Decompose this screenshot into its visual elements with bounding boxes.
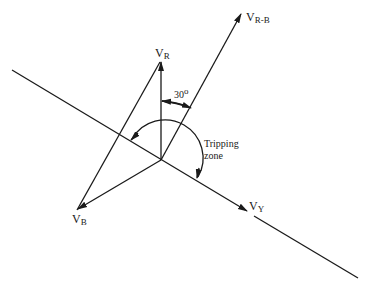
vr-to-vb-line	[77, 62, 160, 210]
boundary-line-extension	[254, 216, 358, 278]
phasor-diagram: VR VR-B VY VB 30o Tripping zone	[0, 0, 367, 288]
angle-label: 30o	[174, 86, 189, 100]
tripping-label: Tripping	[204, 138, 239, 149]
vr-label: VR	[155, 46, 170, 61]
tripping-zone-arrow-left	[131, 133, 138, 140]
vrb-label: VR-B	[246, 10, 270, 25]
vy-label: VY	[249, 199, 265, 214]
vb-label: VB	[72, 212, 87, 227]
vb-phasor-arrow	[78, 160, 161, 209]
zone-label: zone	[204, 150, 223, 161]
